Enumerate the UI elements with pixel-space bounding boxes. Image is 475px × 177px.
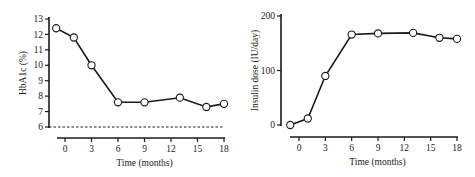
- insulin-dose-chart: 01002000369121518Time (months)Insulin do…: [250, 11, 462, 168]
- x-tick-label: 3: [323, 143, 328, 153]
- x-tick-label: 15: [193, 144, 203, 154]
- data-point-marker: [436, 34, 443, 41]
- x-axis-title: Time (months): [116, 158, 172, 169]
- y-tick-label: 13: [34, 14, 44, 24]
- x-tick-label: 12: [166, 144, 176, 154]
- data-point-marker: [348, 31, 355, 38]
- data-point-marker: [287, 121, 294, 128]
- data-point-marker: [374, 30, 381, 37]
- data-point-marker: [453, 35, 460, 42]
- y-tick-label: 100: [261, 66, 276, 76]
- y-tick-label: 6: [38, 122, 43, 132]
- y-tick-label: 10: [34, 60, 44, 70]
- x-tick-label: 15: [426, 143, 436, 153]
- x-tick-label: 12: [400, 143, 410, 153]
- data-point-marker: [70, 34, 77, 41]
- x-tick-label: 6: [116, 144, 121, 154]
- data-point-marker: [176, 94, 183, 101]
- x-tick-label: 9: [376, 143, 381, 153]
- x-tick-label: 9: [142, 144, 147, 154]
- x-tick-label: 0: [63, 144, 68, 154]
- y-axis-title: HbA1c (%): [18, 51, 29, 95]
- y-tick-label: 7: [38, 107, 43, 117]
- data-line: [290, 33, 457, 125]
- y-tick-label: 8: [38, 91, 43, 101]
- y-tick-label: 12: [34, 30, 44, 40]
- x-tick-label: 3: [89, 144, 94, 154]
- x-tick-label: 0: [297, 143, 302, 153]
- data-point-marker: [88, 62, 95, 69]
- x-tick-label: 18: [219, 144, 229, 154]
- y-tick-label: 9: [38, 76, 43, 86]
- y-tick-label: 11: [34, 45, 43, 55]
- data-point-marker: [203, 103, 210, 110]
- data-point-marker: [220, 100, 227, 107]
- x-tick-label: 18: [452, 143, 462, 153]
- figure: 6789101112130369121518Time (months)HbA1c…: [0, 0, 475, 177]
- data-point-marker: [53, 25, 60, 32]
- y-axis-title: Insulin dose (IU/day): [250, 30, 261, 111]
- data-point-marker: [410, 29, 417, 36]
- y-tick-label: 200: [261, 11, 276, 21]
- data-point-marker: [304, 115, 311, 122]
- data-line: [56, 28, 224, 107]
- data-point-marker: [322, 72, 329, 79]
- x-axis-title: Time (months): [349, 157, 405, 168]
- data-point-marker: [141, 99, 148, 106]
- y-tick-label: 0: [270, 120, 275, 130]
- data-point-marker: [114, 99, 121, 106]
- hba1c-chart: 6789101112130369121518Time (months)HbA1c…: [18, 14, 229, 169]
- x-tick-label: 6: [349, 143, 354, 153]
